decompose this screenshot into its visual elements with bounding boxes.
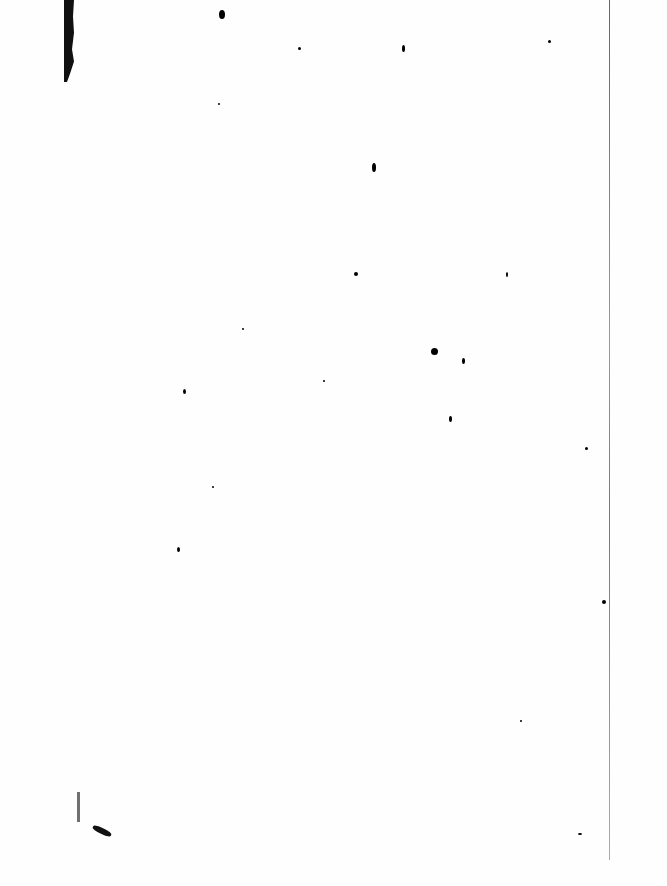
scan-speck	[585, 447, 588, 450]
page-edge-line	[609, 0, 610, 860]
scan-speck	[449, 416, 452, 422]
scan-speck	[462, 358, 465, 364]
scan-speck	[219, 10, 225, 19]
scan-speck	[218, 103, 220, 105]
scan-speck	[602, 600, 606, 604]
scan-speck	[506, 272, 508, 277]
scan-speck	[323, 380, 325, 382]
scan-speck	[402, 45, 405, 52]
scan-speck	[183, 389, 186, 394]
blank-scanned-page	[0, 0, 667, 886]
scan-speck	[520, 720, 522, 722]
scan-speck	[212, 486, 214, 488]
scan-speck	[242, 328, 244, 330]
scan-smudge	[92, 824, 113, 838]
scan-speck	[177, 547, 180, 552]
scan-smudge	[77, 792, 80, 822]
scan-speck	[431, 348, 438, 355]
binding-edge-shadow	[64, 0, 74, 82]
scan-speck	[548, 40, 551, 43]
scan-speck	[298, 47, 301, 50]
scan-speck	[578, 833, 582, 835]
scan-speck	[372, 163, 376, 172]
scan-speck	[354, 272, 358, 276]
